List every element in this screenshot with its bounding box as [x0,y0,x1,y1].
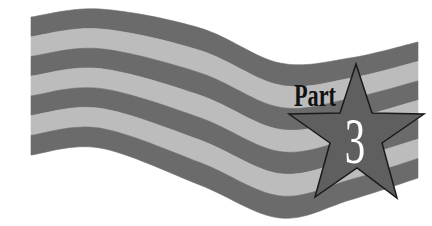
part-number: 3 [345,104,365,177]
part-banner-graphic: Part 3 [0,0,432,226]
part-label: Part [294,78,336,112]
